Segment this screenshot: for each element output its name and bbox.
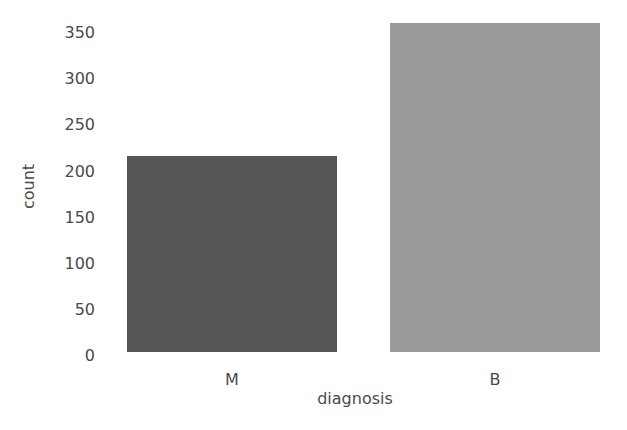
y-tick-label: 250 <box>64 117 95 133</box>
y-tick-label: 300 <box>64 71 95 87</box>
x-tick-label: B <box>465 370 525 389</box>
bar-M <box>127 156 337 352</box>
x-tick-label: M <box>202 370 262 389</box>
y-axis-label: count <box>19 157 38 217</box>
y-tick-label: 0 <box>85 348 95 364</box>
bar-B <box>390 23 600 352</box>
y-tick-label: 350 <box>64 25 95 41</box>
x-axis-label: diagnosis <box>300 389 410 408</box>
y-tick-label: 100 <box>64 256 95 272</box>
y-tick-label: 200 <box>64 164 95 180</box>
y-tick-label: 50 <box>75 302 95 318</box>
y-tick-label: 150 <box>64 210 95 226</box>
